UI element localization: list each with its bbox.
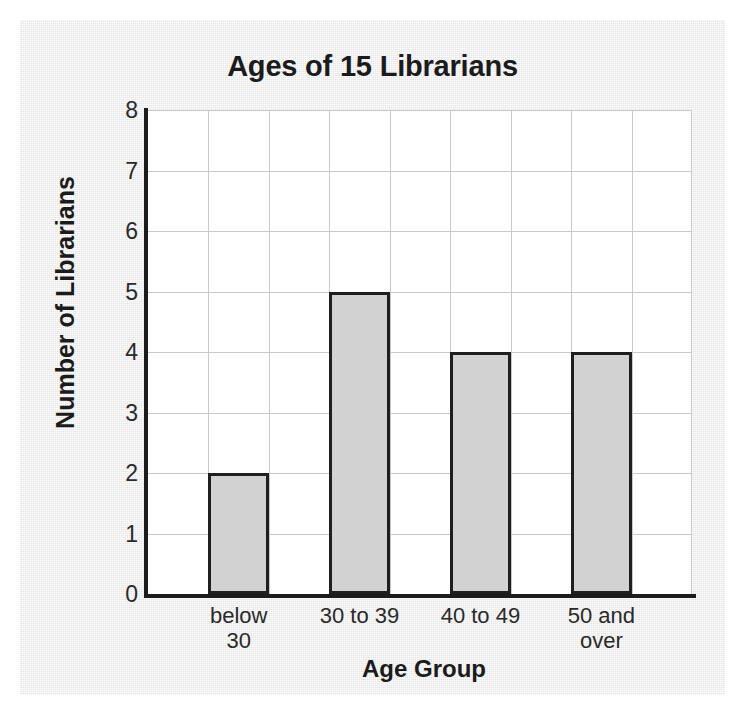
y-tick-label: 7 xyxy=(20,159,138,182)
gridline-horizontal xyxy=(148,171,692,172)
x-tick-label: 40 to 49 xyxy=(423,604,538,629)
bar xyxy=(450,352,510,594)
x-tick-label: below 30 xyxy=(181,604,296,653)
bar xyxy=(571,352,631,594)
y-axis-tick-labels: 012345678 xyxy=(20,20,138,695)
gridline-horizontal xyxy=(148,292,692,293)
y-tick-label: 0 xyxy=(20,583,138,606)
x-axis-line xyxy=(144,594,696,598)
gridline-horizontal xyxy=(148,110,692,111)
y-axis-line xyxy=(144,108,148,598)
gridline-vertical xyxy=(632,110,633,594)
gridline-vertical xyxy=(269,110,270,594)
x-axis-title: Age Group xyxy=(148,655,700,683)
bar xyxy=(208,473,268,594)
y-tick-label: 4 xyxy=(20,341,138,364)
scanned-paper-sheet: Ages of 15 Librarians Number of Libraria… xyxy=(20,20,725,695)
y-tick-label: 8 xyxy=(20,99,138,122)
y-tick-label: 3 xyxy=(20,401,138,424)
x-tick-label: 30 to 39 xyxy=(302,604,417,629)
x-tick-label: 50 and over xyxy=(544,604,659,653)
y-tick-label: 2 xyxy=(20,462,138,485)
bar xyxy=(329,292,389,595)
gridline-vertical xyxy=(511,110,512,594)
y-tick-label: 1 xyxy=(20,522,138,545)
gridline-horizontal xyxy=(148,231,692,232)
plot-area xyxy=(148,110,692,594)
gridline-vertical xyxy=(390,110,391,594)
y-tick-label: 6 xyxy=(20,220,138,243)
y-tick-label: 5 xyxy=(20,280,138,303)
